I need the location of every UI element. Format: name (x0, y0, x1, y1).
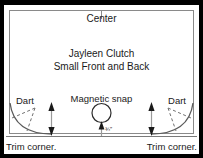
pattern-diagram: Center Jayleen Clutch Small Front and Ba… (0, 0, 203, 158)
pattern-name-line-2: Small Front and Back (0, 61, 203, 74)
height-arrow-right-head-down (148, 127, 154, 136)
trim-corner-label-right: Trim corner. (147, 142, 197, 153)
trim-corner-label-left: Trim corner. (6, 142, 56, 153)
pattern-name-block: Jayleen Clutch Small Front and Back (0, 48, 203, 73)
center-label: Center (0, 13, 203, 24)
snap-measurement-label: ¾″ (105, 126, 112, 133)
dart-leg-right-outer (168, 108, 191, 118)
pattern-name-line-1: Jayleen Clutch (0, 48, 203, 61)
height-arrow-left-head-down (48, 127, 54, 136)
magnetic-snap-label: Magnetic snap (0, 94, 203, 105)
dart-leg-left-outer (12, 108, 35, 118)
magnetic-snap-circle (92, 104, 111, 123)
